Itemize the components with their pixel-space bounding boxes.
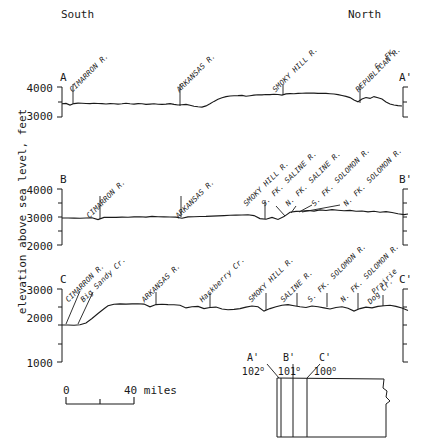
profile-b-axis-right (403, 189, 408, 245)
profile-a-river-ticks (73, 84, 360, 106)
profile-a-line (62, 93, 402, 107)
index-map-longitude-lines (281, 378, 307, 437)
profile-c-axis-left (57, 289, 62, 362)
profile-a-axis-right (403, 87, 408, 117)
profile-b-axis-left (57, 189, 62, 245)
index-map-leader-lines (267, 364, 320, 378)
index-map-kansas (277, 378, 390, 437)
profile-b-line (62, 210, 408, 220)
cross-section-figure: South North elevation above sea level, f… (0, 0, 434, 442)
profile-c-axis-right (403, 289, 408, 362)
figure-linework (0, 0, 434, 442)
profile-a-axis-left (57, 87, 62, 117)
profile-c-line (62, 304, 408, 326)
scale-bar (66, 397, 134, 404)
